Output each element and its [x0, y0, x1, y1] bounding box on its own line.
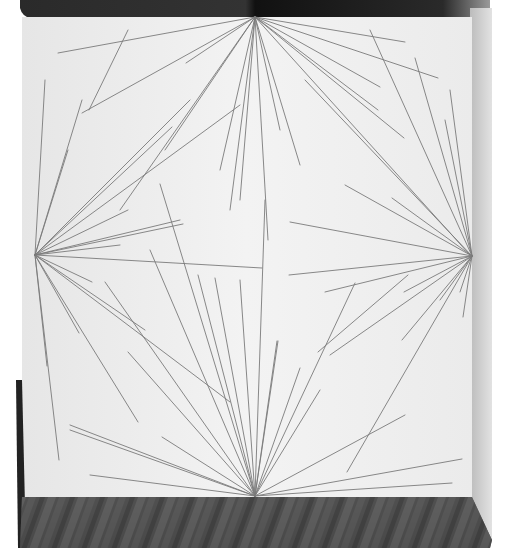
- artwork-canvas: [0, 0, 510, 554]
- ceiling: [20, 0, 490, 18]
- wall-drawing-photo: [0, 0, 510, 554]
- right-side-wall: [470, 8, 492, 540]
- main-wall: [22, 17, 472, 497]
- floor-planks: [20, 497, 492, 548]
